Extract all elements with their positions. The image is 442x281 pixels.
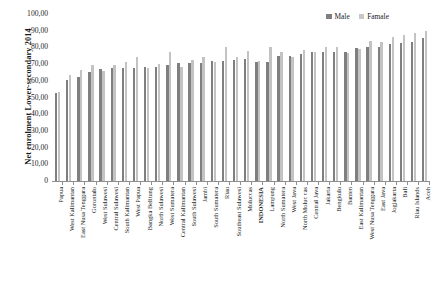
- x-label-slot: Riau: [219, 185, 230, 279]
- x-label-slot: Moluccas: [241, 185, 252, 279]
- y-axis-tick-labels: 100,0090,0080,0070,0060,0050,0040,0030,0…: [0, 0, 48, 195]
- bar-series-container: [52, 14, 430, 181]
- x-label-slot: South Kalimantan: [119, 185, 130, 279]
- bar-female: [380, 42, 382, 181]
- bar-female: [214, 62, 216, 181]
- x-label-slot: INDONESIA: [252, 185, 263, 279]
- bar-group: [408, 14, 419, 181]
- bar-group: [319, 14, 330, 181]
- bar-female: [414, 33, 416, 181]
- bar-group: [163, 14, 174, 181]
- bar-group: [308, 14, 319, 181]
- x-label-slot: Bangka Belitung: [141, 185, 152, 279]
- y-axis-tick-label: 90,00: [2, 27, 48, 35]
- x-label-slot: Central Sulawesi: [108, 185, 119, 279]
- x-label-slot: South Sulawesi: [186, 185, 197, 279]
- bar-group: [252, 14, 263, 181]
- bar-group: [52, 14, 63, 181]
- x-label-slot: East Kalimantan: [352, 185, 363, 279]
- bar-group: [152, 14, 163, 181]
- bar-group: [286, 14, 297, 181]
- y-axis-tick-label: 40,00: [2, 110, 48, 118]
- bar-group: [397, 14, 408, 181]
- bar-female: [291, 57, 293, 181]
- x-label-slot: Banten: [341, 185, 352, 279]
- bar-group: [352, 14, 363, 181]
- legend-item-male: Male: [326, 12, 350, 21]
- bar-group: [108, 14, 119, 181]
- bar-group: [85, 14, 96, 181]
- x-label-slot: East Nusa Tenggara: [74, 185, 85, 279]
- y-axis-tick-label: 70,00: [2, 60, 48, 68]
- bar-group: [197, 14, 208, 181]
- bar-group: [119, 14, 130, 181]
- y-axis-tick-label: 50,00: [2, 94, 48, 102]
- bar-female: [91, 65, 93, 181]
- x-label-slot: West Nusa Tenggara: [364, 185, 375, 279]
- y-axis-tick-label: 30,00: [2, 127, 48, 135]
- bar-female: [125, 62, 127, 181]
- bar-group: [364, 14, 375, 181]
- bar-female: [369, 41, 371, 181]
- bar-female: [347, 53, 349, 181]
- bar-female: [247, 51, 249, 181]
- y-axis-tick-label: 60,00: [2, 77, 48, 85]
- bar-female: [191, 60, 193, 181]
- x-label-slot: Central Kalimantan: [174, 185, 185, 279]
- x-label-slot: West Sulawesi: [97, 185, 108, 279]
- bar-group: [230, 14, 241, 181]
- x-label-slot: Lampung: [263, 185, 274, 279]
- legend-label-female: Famale: [367, 12, 389, 21]
- x-label-slot: North Sulawesi: [152, 185, 163, 279]
- x-label-slot: West Java: [286, 185, 297, 279]
- legend-item-female: Famale: [359, 12, 389, 21]
- bar-female: [325, 47, 327, 181]
- x-label-slot: Bali: [397, 185, 408, 279]
- bar-group: [174, 14, 185, 181]
- x-label-slot: Papua: [52, 185, 63, 279]
- x-label-slot: North Sumatera: [275, 185, 286, 279]
- x-label-slot: West Kalimantan: [63, 185, 74, 279]
- bar-group: [63, 14, 74, 181]
- y-axis-tick-label: 100,00: [2, 10, 48, 18]
- bar-female: [58, 92, 60, 181]
- x-label-slot: Jakarta: [319, 185, 330, 279]
- x-label-slot: East Java: [375, 185, 386, 279]
- bar-female: [69, 75, 71, 181]
- x-axis-category-labels: PapuaWest KalimantanEast Nusa TenggaraGo…: [52, 185, 430, 279]
- bar-female: [303, 50, 305, 181]
- bar-group: [263, 14, 274, 181]
- x-label-slot: West Papua: [130, 185, 141, 279]
- bar-female: [180, 67, 182, 181]
- x-label-slot: Aceh: [419, 185, 430, 279]
- bar-female: [358, 49, 360, 181]
- bar-chart: Net enrolment Lower-secondary 2014 100,0…: [0, 0, 442, 281]
- y-axis-tick-label: 0: [2, 177, 48, 185]
- bar-female: [158, 64, 160, 181]
- bar-female: [258, 61, 260, 181]
- bar-group: [97, 14, 108, 181]
- x-label-slot: West Sumatera: [163, 185, 174, 279]
- bar-female: [269, 47, 271, 181]
- bar-female: [113, 65, 115, 181]
- bar-female: [236, 57, 238, 181]
- bar-group: [275, 14, 286, 181]
- bar-female: [202, 57, 204, 181]
- bar-group: [375, 14, 386, 181]
- x-label-slot: Central Java: [308, 185, 319, 279]
- bar-female: [225, 47, 227, 181]
- x-label-slot: Riau Islands: [408, 185, 419, 279]
- bar-female: [147, 68, 149, 181]
- bar-female: [169, 52, 171, 181]
- bar-group: [186, 14, 197, 181]
- bar-group: [297, 14, 308, 181]
- bar-female: [136, 57, 138, 181]
- legend-label-male: Male: [335, 12, 350, 21]
- bar-group: [74, 14, 85, 181]
- bar-female: [280, 52, 282, 181]
- bar-group: [141, 14, 152, 181]
- y-axis-tick-label: 80,00: [2, 43, 48, 51]
- bar-female: [314, 52, 316, 181]
- x-label-slot: South Sumatera: [208, 185, 219, 279]
- bar-female: [403, 35, 405, 181]
